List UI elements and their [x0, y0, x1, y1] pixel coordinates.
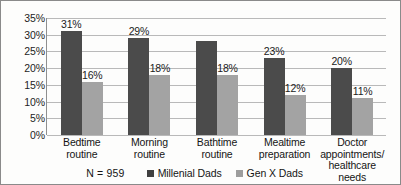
bar-value-label: 12% — [285, 83, 305, 94]
category-label-line: routine — [117, 149, 183, 161]
bar-group: 18% — [183, 18, 251, 135]
y-axis-tick-label: 0% — [5, 130, 45, 140]
legend-swatch-icon — [236, 170, 243, 177]
bar[interactable]: 23% — [264, 58, 285, 135]
bar-group-bars: 23%12% — [251, 18, 319, 135]
legend-label: Millenial Dads — [158, 167, 222, 179]
y-axis-tick-label: 35% — [5, 13, 45, 23]
bar-group-bars: 18% — [183, 18, 251, 135]
bar-group-bars: 31%16% — [48, 18, 116, 135]
bar-value-label: 29% — [129, 26, 149, 37]
category-label-line: Bathtime — [184, 137, 250, 149]
legend-entry[interactable]: Millenial Dads — [147, 167, 222, 179]
bar-value-label: 16% — [82, 70, 102, 81]
bar[interactable]: 12% — [285, 95, 306, 135]
y-axis-tick-label: 5% — [5, 113, 45, 123]
bar[interactable]: 18% — [217, 75, 238, 135]
bar-chart: 35%30%25%20%15%10%5%0% 31%16%29%18%18%23… — [0, 0, 401, 185]
legend-label: Gen X Dads — [247, 167, 303, 179]
legend-entry[interactable]: Gen X Dads — [236, 167, 303, 179]
y-axis: 35%30%25%20%15%10%5%0% — [1, 18, 45, 135]
bar[interactable]: 16% — [82, 82, 103, 135]
y-axis-tick-label: 30% — [5, 30, 45, 40]
category-label-line: Mealtime — [252, 137, 318, 149]
bar[interactable]: 20% — [331, 68, 352, 135]
y-axis-tick-label: 15% — [5, 80, 45, 90]
y-axis-tick-label: 25% — [5, 46, 45, 56]
category-label-line: Morning — [117, 137, 183, 149]
legend-swatch-icon — [147, 170, 154, 177]
bar-group: 31%16% — [48, 18, 116, 135]
bar[interactable]: 31% — [61, 31, 82, 135]
y-axis-tick-label: 20% — [5, 63, 45, 73]
chart-footer: N = 959 Millenial DadsGen X Dads — [1, 167, 401, 179]
bar-value-label: 31% — [61, 19, 81, 30]
bar[interactable]: 18% — [149, 75, 170, 135]
bar[interactable]: 29% — [128, 38, 149, 135]
bar-value-label: 18% — [150, 63, 170, 74]
bar[interactable]: 11% — [352, 98, 373, 135]
bar-value-label: 11% — [353, 86, 373, 97]
category-label-line: preparation — [252, 149, 318, 161]
category-label-line: routine — [49, 149, 115, 161]
bar-value-label: 20% — [331, 56, 351, 67]
bar-group: 29%18% — [116, 18, 184, 135]
bar-group-bars: 20%11% — [318, 18, 386, 135]
bar-value-label: 18% — [217, 63, 237, 74]
y-axis-tick-label: 10% — [5, 97, 45, 107]
bar-group: 20%11% — [318, 18, 386, 135]
category-label-line: Doctor — [319, 137, 385, 149]
category-label-line: Bedtime — [49, 137, 115, 149]
legend: Millenial DadsGen X Dads — [147, 167, 317, 179]
bar-value-label: 23% — [264, 46, 284, 57]
category-label-line: routine — [184, 149, 250, 161]
sample-size-annotation: N = 959 — [86, 167, 124, 179]
bar-groups: 31%16%29%18%18%23%12%20%11% — [48, 18, 386, 135]
bar-group-bars: 29%18% — [116, 18, 184, 135]
bar-group: 23%12% — [251, 18, 319, 135]
bar[interactable] — [196, 41, 217, 135]
